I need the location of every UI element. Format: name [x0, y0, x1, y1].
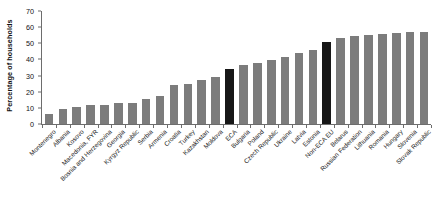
bar — [184, 84, 193, 124]
bar — [156, 96, 165, 124]
y-axis-tick-mark — [38, 43, 41, 44]
bar — [253, 63, 262, 124]
y-axis-tick-mark — [38, 75, 41, 76]
plot-area — [42, 11, 431, 124]
bar — [142, 99, 151, 125]
bar — [281, 57, 290, 124]
bar — [45, 114, 54, 124]
bar — [406, 32, 415, 124]
bar — [128, 103, 137, 124]
bar — [197, 80, 206, 124]
x-axis-category-labels: MontenegroAlbaniaKosovoMacedonia, FYRBos… — [42, 128, 433, 205]
y-axis-tick-label: 50 — [26, 39, 34, 48]
bar — [211, 77, 220, 124]
y-axis-tick-label: 70 — [26, 7, 34, 16]
y-axis-tick-mark — [38, 124, 41, 125]
y-axis-tick-mark — [38, 11, 41, 12]
bar — [100, 105, 109, 124]
y-axis-title-text: Percentage of households — [5, 19, 14, 111]
bar — [336, 38, 345, 124]
bar — [86, 105, 95, 124]
y-axis-tick-label: 10 — [26, 103, 34, 112]
bar — [239, 65, 248, 124]
bar — [420, 32, 429, 124]
bar-chart-figure: Percentage of households 010203040506070… — [0, 0, 433, 205]
y-axis-tick-mark — [38, 59, 41, 60]
bar — [225, 69, 234, 124]
bar — [72, 107, 81, 124]
y-axis-tick-mark — [38, 27, 41, 28]
bar — [267, 60, 276, 124]
bar — [170, 85, 179, 124]
y-axis-tick-label: 60 — [26, 23, 34, 32]
bar — [350, 36, 359, 124]
bar — [378, 34, 387, 124]
bar — [364, 35, 373, 124]
bar — [114, 103, 123, 124]
bar — [59, 109, 68, 124]
y-axis-tick-label: 0 — [30, 120, 34, 129]
y-axis-tick-mark — [38, 91, 41, 92]
y-axis-tick-labels: 010203040506070 — [16, 0, 38, 130]
bar — [322, 42, 331, 124]
y-axis-tick-label: 40 — [26, 55, 34, 64]
y-axis-tick-mark — [38, 107, 41, 108]
y-axis-tick-label: 20 — [26, 87, 34, 96]
bar — [309, 50, 318, 124]
bar — [392, 33, 401, 124]
bar — [295, 53, 304, 124]
y-axis-tick-label: 30 — [26, 71, 34, 80]
